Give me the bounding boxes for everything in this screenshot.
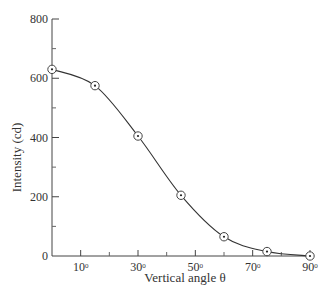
y-tick-label: 0 [42,249,48,263]
y-tick-label: 200 [30,190,48,204]
data-point-dot [223,236,225,238]
data-point-dot [309,255,311,257]
y-axis-label: Intensity (cd) [9,123,24,193]
data-point-dot [137,135,139,137]
data-point-dot [51,68,53,70]
data-point-dot [266,250,268,252]
x-tick-label: 90ᵒ [302,260,318,274]
intensity-curve [52,69,310,256]
y-tick-label: 600 [30,71,48,85]
y-tick-label: 400 [30,131,48,145]
x-tick-label: 10ᵒ [73,260,89,274]
x-tick-label: 70ᵒ [245,260,261,274]
y-tick-label: 800 [30,12,48,26]
intensity-chart: 020040060080010ᵒ30ᵒ50ᵒ70ᵒ90ᵒVertical ang… [0,0,336,298]
x-axis-label: Vertical angle θ [144,270,225,285]
data-point-dot [180,194,182,196]
data-point-dot [94,85,96,87]
